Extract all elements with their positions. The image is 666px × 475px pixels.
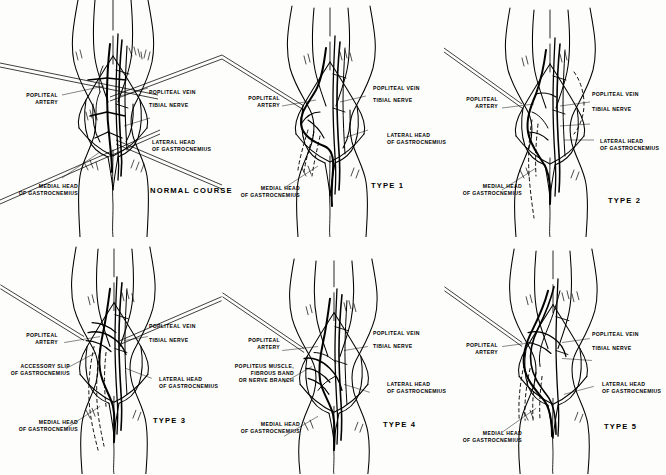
label-line: OF GASTROCNEMIUS [241,428,300,434]
label-line: TIBIAL NERVE [373,97,412,103]
label-line: OF GASTROCNEMIUS [152,146,211,152]
label-line: OF GASTROCNEMIUS [159,383,218,389]
label-popliteal-vein-p2: POPLITEAL VEIN [373,85,420,92]
label-line: POPLITEAL [248,337,280,343]
label-popliteal-vein-p6: POPLITEAL VEIN [592,331,639,338]
label-tibial-nerve-p6: TIBIAL NERVE [592,345,631,352]
label-medial-head-p5: MEDIAL HEAD OF GASTROCNEMIUS [222,421,300,435]
label-popliteal-vein-p3: POPLITEAL VEIN [592,91,639,98]
label-lateral-head-p2: LATERAL HEAD OF GASTROCNEMIUS [387,132,446,146]
label-medial-head-p6: MEDIAL HEAD OF GASTROCNEMIUS [444,430,522,444]
label-line: ARTERY [257,102,280,108]
label-line: POPLITEAL [248,95,280,101]
label-medial-head-p2: MEDIAL HEAD OF GASTROCNEMIUS [222,185,300,199]
panel-title-type-2: TYPE 2 [608,196,641,205]
label-tibial-nerve-p2: TIBIAL NERVE [373,97,412,104]
title-text: TYPE 4 [383,420,416,429]
label-line: TIBIAL NERVE [149,102,188,108]
label-line: POPLITEAL [466,96,498,102]
label-line: TIBIAL NERVE [373,343,412,349]
panel-title-type-1: TYPE 1 [371,181,404,190]
label-popliteal-vein-p5: POPLITEAL VEIN [373,330,420,337]
label-line: POPLITEAL VEIN [373,85,420,91]
label-line: POPLITEAL [26,332,58,338]
label-popliteal-artery-p2: POPLITEAL ARTERY [228,95,280,109]
label-popliteal-artery-p5: POPLITEAL ARTERY [228,337,280,351]
label-line: MEDIAL HEAD [261,421,300,427]
label-line: POPLITEAL VEIN [592,331,639,337]
label-line: ARTERY [35,99,58,105]
label-tibial-nerve-p1: TIBIAL NERVE [149,102,188,109]
label-line: OF GASTROCNEMIUS [19,426,78,432]
label-line: ARTERY [35,339,58,345]
label-line: POPLITEAL VEIN [373,330,420,336]
label-lateral-head-p4: LATERAL HEAD OF GASTROCNEMIUS [159,376,218,390]
label-line: LATERAL HEAD [387,381,430,387]
popliteal-entrapment-figure: POPLITEAL ARTERY POPLITEAL VEIN TIBIAL N… [0,0,666,475]
label-line: MEDIAL HEAD [39,419,78,425]
label-lateral-head-p1: LATERAL HEAD OF GASTROCNEMIUS [152,139,211,153]
label-popliteal-vein-p4: POPLITEAL VEIN [149,323,196,330]
label-lateral-head-p6: LATERAL HEAD OF GASTROCNEMIUS [602,381,661,395]
label-line: POPLITEAL [26,92,58,98]
label-line: OR NERVE BRANCH [239,377,294,383]
label-line: OF GASTROCNEMIUS [19,190,78,196]
panel-type-3 [0,237,222,474]
label-line: TIBIAL NERVE [592,345,631,351]
title-text: TYPE 1 [371,181,404,190]
label-line: FIBROUS BAND [251,370,294,376]
label-tibial-nerve-p3: TIBIAL NERVE [592,106,631,113]
title-text: TYPE 2 [608,196,641,205]
panel-type-4 [222,237,444,474]
label-line: MEDIAL HEAD [261,185,300,191]
panel-normal-course [0,0,222,237]
label-line: TIBIAL NERVE [149,337,188,343]
title-text: TYPE 3 [153,416,186,425]
label-line: LATERAL HEAD [600,138,643,144]
label-popliteal-vein-p1: POPLITEAL VEIN [149,89,196,96]
label-line: LATERAL HEAD [387,132,430,138]
label-line: OF GASTROCNEMIUS [11,370,70,376]
label-line: LATERAL HEAD [602,381,645,387]
label-line: OF GASTROCNEMIUS [463,437,522,443]
label-lateral-head-p3: LATERAL HEAD OF GASTROCNEMIUS [600,138,659,152]
label-line: LATERAL HEAD [152,139,195,145]
label-line: MEDIAL HEAD [483,430,522,436]
label-tibial-nerve-p5: TIBIAL NERVE [373,343,412,350]
label-line: POPLITEAL VEIN [592,91,639,97]
label-popliteal-artery-p1: POPLITEAL ARTERY [6,92,58,106]
title-text: NORMAL COURSE [150,186,233,195]
label-line: OF GASTROCNEMIUS [463,190,522,196]
panel-title-normal-course: NORMAL COURSE [150,186,233,195]
label-line: MEDIAL HEAD [39,183,78,189]
label-lateral-head-p5: LATERAL HEAD OF GASTROCNEMIUS [387,381,446,395]
label-line: POPLITEUS MUSCLE, [235,363,294,369]
label-line: POPLITEAL VEIN [149,89,196,95]
label-line: POPLITEAL VEIN [149,323,196,329]
label-accessory-slip-p4: ACCESSORY SLIP OF GASTROCNEMIUS [0,363,70,377]
label-line: ARTERY [475,103,498,109]
label-line: POPLITEAL [466,342,498,348]
label-line: OF GASTROCNEMIUS [387,388,446,394]
label-medial-head-p4: MEDIAL HEAD OF GASTROCNEMIUS [0,419,78,433]
title-text: TYPE 5 [604,422,637,431]
panel-title-type-4: TYPE 4 [383,420,416,429]
label-line: ARTERY [475,349,498,355]
label-popliteal-artery-p6: POPLITEAL ARTERY [446,342,498,356]
label-popliteal-artery-p4: POPLITEAL ARTERY [6,332,58,346]
label-medial-head-p3: MEDIAL HEAD OF GASTROCNEMIUS [444,183,522,197]
label-line: OF GASTROCNEMIUS [387,139,446,145]
label-line: OF GASTROCNEMIUS [602,388,661,394]
label-medial-head-p1: MEDIAL HEAD OF GASTROCNEMIUS [0,183,78,197]
label-line: LATERAL HEAD [159,376,202,382]
label-line: ARTERY [257,344,280,350]
label-line: ACCESSORY SLIP [20,363,70,369]
label-popliteal-artery-p3: POPLITEAL ARTERY [446,96,498,110]
label-tibial-nerve-p4: TIBIAL NERVE [149,337,188,344]
label-popliteus-band-p5: POPLITEUS MUSCLE, FIBROUS BAND OR NERVE … [222,363,294,385]
panel-title-type-5: TYPE 5 [604,422,637,431]
panel-type-1 [222,0,444,237]
label-line: OF GASTROCNEMIUS [600,145,659,151]
label-line: OF GASTROCNEMIUS [241,192,300,198]
panel-title-type-3: TYPE 3 [153,416,186,425]
